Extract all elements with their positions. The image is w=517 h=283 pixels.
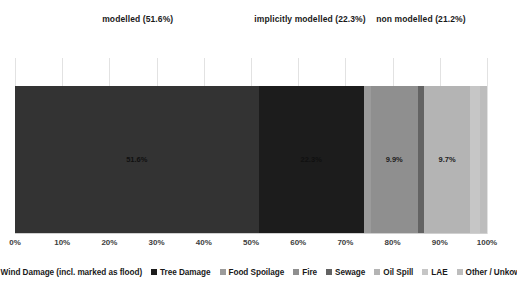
legend-swatch-icon	[293, 269, 299, 275]
x-axis-tick-label: 10%	[54, 238, 70, 247]
bar-segment[interactable]: 51.6%	[15, 86, 259, 233]
chart-legend: Wind Damage (incl. marked as flood)Tree …	[0, 264, 517, 280]
legend-item[interactable]: Fire	[293, 268, 317, 277]
group-annotation-label: implicitly modelled (22.3%)	[254, 14, 365, 24]
legend-item-label: Sewage	[335, 268, 365, 277]
legend-item-label: Food Spoilage	[229, 268, 285, 277]
legend-swatch-icon	[220, 269, 226, 275]
x-axis-tick-label: 50%	[243, 238, 259, 247]
bar-segment-value-label: 9.9%	[386, 155, 403, 164]
legend-item-label: Wind Damage (incl. marked as flood)	[1, 268, 142, 277]
group-annotation-label: modelled (51.6%)	[102, 14, 173, 24]
bar-segment-value-label: 22.3%	[301, 155, 322, 164]
bar-segment-value-label: 51.6%	[126, 155, 147, 164]
x-axis-tick-label: 70%	[337, 238, 353, 247]
legend-item[interactable]: Other / Unkown	[457, 268, 517, 277]
group-annotation-label: non modelled (21.2%)	[376, 14, 465, 24]
legend-swatch-icon	[422, 269, 428, 275]
bar-segment[interactable]	[418, 86, 425, 233]
legend-item[interactable]: Oil Spill	[374, 268, 413, 277]
legend-item[interactable]: Food Spoilage	[220, 268, 285, 277]
legend-item[interactable]: Wind Damage (incl. marked as flood)	[0, 268, 142, 277]
x-axis-tick-label: 20%	[101, 238, 117, 247]
x-axis-line	[15, 233, 487, 234]
bar-segment-value-label: 9.7%	[439, 155, 456, 164]
x-axis-tick-label: 100%	[477, 238, 497, 247]
legend-item[interactable]: Sewage	[326, 268, 365, 277]
x-axis-tick-label: 30%	[149, 238, 165, 247]
legend-item-label: LAE	[431, 268, 447, 277]
x-axis-tick-label: 80%	[385, 238, 401, 247]
legend-swatch-icon	[151, 269, 157, 275]
legend-item-label: Fire	[302, 268, 317, 277]
legend-swatch-icon	[457, 269, 463, 275]
legend-item-label: Other / Unkown	[466, 268, 517, 277]
legend-item[interactable]: Tree Damage	[151, 268, 210, 277]
x-axis-tick-label: 0%	[9, 238, 21, 247]
legend-item-label: Tree Damage	[160, 268, 210, 277]
bar-segment[interactable]: 22.3%	[259, 86, 364, 233]
bar-segment[interactable]: 9.9%	[371, 86, 418, 233]
gridline	[487, 58, 488, 234]
x-axis-tick-label: 90%	[432, 238, 448, 247]
bar-segment[interactable]	[470, 86, 480, 233]
legend-item[interactable]: LAE	[422, 268, 447, 277]
stacked-bar-series[interactable]: 51.6%22.3%9.9%9.7%	[15, 86, 487, 233]
x-axis-tick-label: 40%	[196, 238, 212, 247]
legend-item-label: Oil Spill	[383, 268, 413, 277]
x-axis-tick-label: 60%	[290, 238, 306, 247]
bar-segment[interactable]: 9.7%	[424, 86, 470, 233]
legend-swatch-icon	[374, 269, 380, 275]
stacked-bar-chart: modelled (51.6%)implicitly modelled (22.…	[0, 0, 517, 283]
bar-segment[interactable]	[480, 86, 487, 233]
legend-swatch-icon	[326, 269, 332, 275]
bar-segment[interactable]	[364, 86, 371, 233]
